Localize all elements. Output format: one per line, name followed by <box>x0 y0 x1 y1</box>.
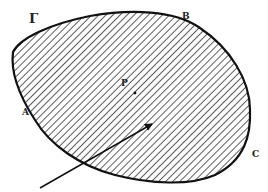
label-c: C <box>252 149 259 159</box>
diagram-canvas: Γ B A C P <box>0 0 268 192</box>
hatched-region <box>13 12 251 183</box>
label-gamma: Γ <box>29 11 39 26</box>
label-b: B <box>182 11 190 21</box>
label-p: P <box>121 78 128 88</box>
point-p-dot <box>134 92 137 95</box>
region-gamma <box>13 12 251 183</box>
label-a: A <box>21 107 30 117</box>
